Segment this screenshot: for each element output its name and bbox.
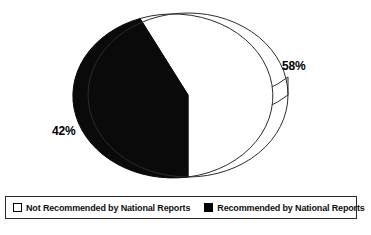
hollow-square-swatch-icon [13,203,22,212]
legend-item-recommended[interactable]: Recommended by National Reports [204,203,364,213]
slice-value-label-recommended: 42% [52,124,75,138]
slice-value-label-not-recommended: 58% [282,59,305,73]
chart-legend: Not Recommended by National Reports Reco… [5,196,357,219]
filled-square-swatch-icon [204,203,213,212]
legend-item-label: Not Recommended by National Reports [26,203,190,213]
pie-chart-graphic [0,0,371,200]
legend-item-not-recommended[interactable]: Not Recommended by National Reports [13,203,190,213]
pie-chart-figure: 58% 42% Not Recommended by National Repo… [0,0,371,235]
legend-item-label: Recommended by National Reports [217,203,364,213]
